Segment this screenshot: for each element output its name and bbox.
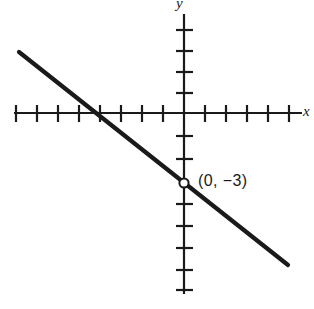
y-axis-label: y xyxy=(176,0,183,11)
graph-figure: y x (0, −3) xyxy=(0,0,314,309)
x-axis-label: x xyxy=(303,104,310,119)
coordinate-plane xyxy=(0,0,314,309)
y-intercept-label: (0, −3) xyxy=(198,172,248,190)
y-intercept-marker xyxy=(179,178,188,187)
plotted-line xyxy=(19,52,288,265)
y-axis xyxy=(176,14,193,294)
x-axis xyxy=(14,105,302,122)
